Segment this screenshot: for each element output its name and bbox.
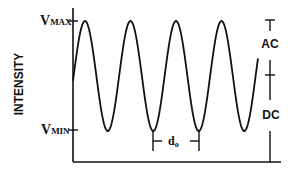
vmin-label: VMIN (41, 122, 70, 137)
period-label: do (168, 134, 179, 149)
y-axis-label: INTENSITY (12, 53, 26, 116)
vmax-label: VMAX (40, 13, 72, 28)
intensity-waveform-diagram: VMAX VMIN INTENSITY AC DC do (0, 0, 295, 172)
dc-label: DC (262, 108, 280, 122)
sinusoidal-waveform (73, 21, 258, 131)
ac-label: AC (261, 37, 279, 51)
